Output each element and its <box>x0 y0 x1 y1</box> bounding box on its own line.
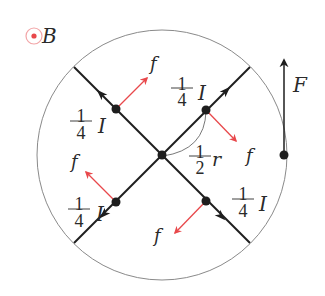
current-symbol: I <box>97 114 107 138</box>
force-label: f <box>148 53 160 74</box>
force-arrow-icon <box>206 110 236 141</box>
force-label: f <box>244 145 256 166</box>
current-denominator: 4 <box>239 201 248 221</box>
current-arrowhead-icon <box>215 210 228 223</box>
magnetic-field-symbol: B <box>26 24 57 48</box>
current-arrow-bottom-right <box>215 210 228 223</box>
current-denominator: 4 <box>178 90 187 110</box>
current-labels: 14I14I14I14I <box>68 74 268 231</box>
label-current-top-left: 14I <box>70 106 107 143</box>
force-f-bottom-right: f <box>152 201 206 246</box>
current-symbol: I <box>95 202 105 226</box>
force-arrow-icon <box>86 172 116 202</box>
center-node <box>158 151 167 160</box>
node-top-left <box>112 105 121 114</box>
current-denominator: 4 <box>75 211 84 231</box>
net-force-label: F <box>292 73 308 97</box>
label-current-bottom-left: 14I <box>68 194 105 231</box>
node-bottom-right <box>202 197 211 206</box>
field-label: B <box>41 24 57 48</box>
net-force-origin-node <box>280 151 289 160</box>
field-out-of-page-dot-icon <box>31 33 36 38</box>
node-top-right <box>202 106 211 115</box>
label-current-top-right: 14I <box>171 74 207 110</box>
node-bottom-left <box>112 198 121 207</box>
force-arrow-icon <box>116 78 147 109</box>
current-symbol: I <box>197 81 207 105</box>
force-arrow-icon <box>175 201 206 233</box>
net-force: F <box>280 60 309 160</box>
radius-label: 12r <box>189 142 223 178</box>
label-current-bottom-right: 14I <box>232 184 268 221</box>
radius-symbol: r <box>212 148 223 170</box>
current-symbol: I <box>258 192 268 216</box>
current-denominator: 4 <box>77 123 86 143</box>
force-f-top-left: f <box>116 53 160 109</box>
magnetic-force-on-loop-diagram: B ffff F 14I14I14I14I 12r <box>0 0 325 296</box>
force-label: f <box>69 151 81 172</box>
radius-denominator: 2 <box>196 158 205 178</box>
force-label: f <box>152 225 164 246</box>
